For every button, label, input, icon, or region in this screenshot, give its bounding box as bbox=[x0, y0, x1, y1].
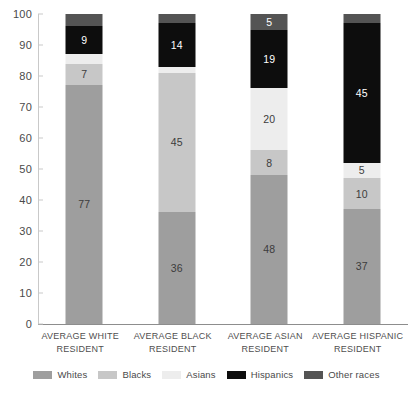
bar-group[interactable]: 4551037 bbox=[316, 14, 409, 324]
legend-swatch-icon bbox=[227, 371, 246, 379]
legend-label: Whites bbox=[57, 370, 87, 380]
y-axis-tick-label: 10 bbox=[0, 288, 32, 299]
y-axis-tick-label: 80 bbox=[0, 71, 32, 82]
bar-group[interactable]: 9777 bbox=[38, 14, 131, 324]
y-axis-tick-label: 60 bbox=[0, 133, 32, 144]
y-axis-tick-label: 70 bbox=[0, 102, 32, 113]
legend-label: Blacks bbox=[122, 370, 151, 380]
bar-segment-hispanics[interactable]: 19 bbox=[251, 30, 288, 89]
bar-segment-whites[interactable]: 48 bbox=[251, 175, 288, 324]
bars-container: 9777144536519208484551037 bbox=[38, 14, 408, 324]
bar-segment-value-label: 7 bbox=[81, 69, 87, 80]
legend-swatch-icon bbox=[33, 371, 52, 379]
y-axis-tick-label: 100 bbox=[0, 9, 32, 20]
stacked-bar-chart: 0102030405060708090100 97771445365192084… bbox=[0, 0, 413, 402]
bar-segment-asians[interactable]: 20 bbox=[251, 88, 288, 150]
bar-segment-asians[interactable]: 5 bbox=[343, 163, 380, 179]
bar-group[interactable]: 51920848 bbox=[223, 14, 316, 324]
bar-segment-whites[interactable]: 77 bbox=[66, 85, 103, 324]
category-label: AVERAGE WHITERESIDENT bbox=[30, 330, 130, 355]
bar-group[interactable]: 144536 bbox=[131, 14, 224, 324]
bar-segment-value-label: 48 bbox=[263, 244, 275, 255]
bar-segment-asians[interactable] bbox=[66, 54, 103, 63]
x-axis-line bbox=[38, 324, 408, 325]
legend-item-other-races[interactable]: Other races bbox=[304, 370, 379, 380]
bar-segment-value-label: 37 bbox=[356, 261, 368, 272]
y-axis-tick-label: 90 bbox=[0, 40, 32, 51]
bar-segment-value-label: 14 bbox=[171, 40, 183, 51]
category-label: AVERAGE HISPANICRESIDENT bbox=[308, 330, 408, 355]
bar-segment-value-label: 5 bbox=[266, 17, 272, 28]
legend-item-asians[interactable]: Asians bbox=[162, 370, 215, 380]
legend-swatch-icon bbox=[98, 371, 117, 379]
y-axis-tick-label: 20 bbox=[0, 257, 32, 268]
bar-segment-hispanics[interactable]: 45 bbox=[343, 23, 380, 163]
legend-label: Hispanics bbox=[251, 370, 294, 380]
stacked-bar[interactable]: 144536 bbox=[158, 14, 195, 324]
bar-segment-value-label: 20 bbox=[263, 114, 275, 125]
bar-segment-value-label: 45 bbox=[171, 137, 183, 148]
legend-swatch-icon bbox=[304, 371, 323, 379]
bar-segment-value-label: 5 bbox=[359, 165, 365, 176]
bar-segment-value-label: 9 bbox=[81, 35, 87, 46]
category-label-line1: AVERAGE HISPANIC bbox=[312, 331, 403, 341]
bar-segment-other-races[interactable] bbox=[343, 14, 380, 23]
category-label-line2: RESIDENT bbox=[30, 343, 130, 356]
bar-segment-whites[interactable]: 37 bbox=[343, 209, 380, 324]
category-label-line1: AVERAGE BLACK bbox=[134, 331, 212, 341]
y-axis-tick-label: 30 bbox=[0, 226, 32, 237]
bar-segment-blacks[interactable]: 8 bbox=[251, 150, 288, 175]
bar-segment-value-label: 36 bbox=[171, 263, 183, 274]
category-label-line2: RESIDENT bbox=[215, 343, 315, 356]
y-axis-tick-label: 50 bbox=[0, 164, 32, 175]
stacked-bar[interactable]: 51920848 bbox=[251, 14, 288, 324]
bar-segment-hispanics[interactable]: 9 bbox=[66, 26, 103, 54]
legend-swatch-icon bbox=[162, 371, 181, 379]
bar-segment-blacks[interactable]: 10 bbox=[343, 178, 380, 209]
category-label: AVERAGE BLACKRESIDENT bbox=[123, 330, 223, 355]
legend-label: Asians bbox=[186, 370, 215, 380]
bar-segment-blacks[interactable]: 45 bbox=[158, 73, 195, 213]
stacked-bar[interactable]: 4551037 bbox=[343, 14, 380, 324]
bar-segment-other-races[interactable] bbox=[158, 14, 195, 23]
legend-item-hispanics[interactable]: Hispanics bbox=[227, 370, 294, 380]
stacked-bar[interactable]: 9777 bbox=[66, 14, 103, 324]
bar-segment-value-label: 45 bbox=[356, 88, 368, 99]
bar-segment-value-label: 8 bbox=[266, 158, 272, 169]
bar-segment-other-races[interactable]: 5 bbox=[251, 14, 288, 30]
chart-legend: WhitesBlacksAsiansHispanicsOther races bbox=[0, 370, 413, 380]
bar-segment-value-label: 10 bbox=[356, 189, 368, 200]
category-label-line1: AVERAGE ASIAN bbox=[228, 331, 303, 341]
legend-label: Other races bbox=[328, 370, 379, 380]
bar-segment-blacks[interactable]: 7 bbox=[66, 64, 103, 86]
category-label-line1: AVERAGE WHITE bbox=[41, 331, 119, 341]
legend-item-whites[interactable]: Whites bbox=[33, 370, 87, 380]
y-axis-tick-label: 0 bbox=[0, 319, 32, 330]
x-axis-category-labels: AVERAGE WHITERESIDENTAVERAGE BLACKRESIDE… bbox=[38, 330, 408, 364]
bar-segment-hispanics[interactable]: 14 bbox=[158, 23, 195, 66]
bar-segment-value-label: 19 bbox=[263, 54, 275, 65]
legend-item-blacks[interactable]: Blacks bbox=[98, 370, 151, 380]
y-axis-tick-label: 40 bbox=[0, 195, 32, 206]
bar-segment-other-races[interactable] bbox=[66, 14, 103, 26]
category-label-line2: RESIDENT bbox=[308, 343, 408, 356]
bar-segment-whites[interactable]: 36 bbox=[158, 212, 195, 324]
category-label: AVERAGE ASIANRESIDENT bbox=[215, 330, 315, 355]
bar-segment-value-label: 77 bbox=[78, 199, 90, 210]
category-label-line2: RESIDENT bbox=[123, 343, 223, 356]
